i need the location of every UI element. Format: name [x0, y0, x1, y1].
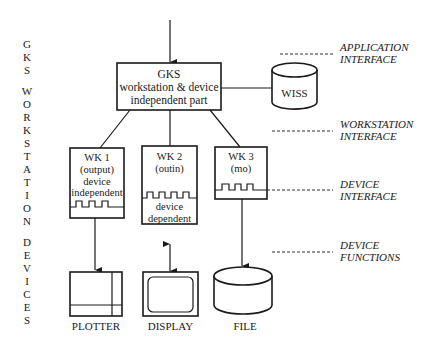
workstation-wk3: WK 3 (mo) [215, 147, 267, 199]
side-letter: E [24, 249, 31, 261]
side-letter: S [24, 137, 30, 149]
diagram-text: WK 3 [228, 151, 253, 162]
diagram-text: device [83, 176, 111, 187]
gks-wk1-link [100, 110, 130, 148]
side-letter: O [23, 98, 31, 110]
side-letter: A [23, 163, 31, 175]
application-interface-label: APPLICATION [339, 41, 409, 53]
side-letter: V [23, 262, 31, 274]
diagram-text: FUNCTIONS [339, 251, 400, 263]
wiss-storage: WISS [272, 63, 317, 109]
diagram-text: device [156, 201, 184, 212]
side-letter: E [24, 301, 31, 313]
workstation-interface-label: WORKSTATION [340, 118, 414, 130]
side-letter: N [23, 215, 31, 227]
gks-title: GKS [157, 68, 180, 80]
plotter-label: PLOTTER [72, 320, 121, 332]
diagram-text: independent [71, 187, 122, 198]
side-letter: O [23, 202, 31, 214]
workstation-wk2: WK 2 (outin) device dependent [142, 146, 197, 224]
diagram-text: dependent [148, 213, 191, 224]
side-letter: S [24, 314, 30, 326]
device-interface-label: DEVICE [339, 178, 379, 190]
gks-architecture-diagram: G K S W O R K S T A T I O N D E V I C E … [0, 0, 440, 345]
device-functions-label: DEVICE [339, 239, 379, 251]
side-letter: C [23, 288, 30, 300]
side-letter: K [23, 51, 31, 63]
diagram-text: (output) [80, 164, 114, 176]
gks-line3: independent part [131, 94, 209, 107]
diagram-text: INTERFACE [339, 130, 397, 142]
wiss-label: WISS [281, 87, 307, 99]
diagram-text: INTERFACE [339, 53, 397, 65]
side-letter: I [25, 275, 29, 287]
side-letter: T [24, 150, 31, 162]
side-letter: T [24, 176, 31, 188]
display-device: DISPLAY [143, 272, 198, 332]
plotter-device: PLOTTER [70, 272, 122, 332]
file-label: FILE [233, 320, 257, 332]
side-letter: D [23, 236, 31, 248]
side-letter: W [22, 85, 33, 97]
diagram-text: WK 1 [84, 152, 109, 163]
side-letter: I [25, 189, 29, 201]
side-label: G K S W O R K S T A T I O N D E V I C E … [22, 38, 33, 326]
diagram-text: WK 2 [157, 151, 182, 162]
side-letter: S [24, 64, 30, 76]
workstation-wk1: WK 1 (output) device independent [70, 148, 124, 218]
diagram-text: INTERFACE [339, 190, 397, 202]
gks-wk3-link [210, 110, 240, 147]
display-label: DISPLAY [148, 320, 193, 332]
side-letter: R [23, 111, 31, 123]
gks-box: GKS workstation & device independent par… [117, 63, 221, 110]
side-letter: K [23, 124, 31, 136]
diagram-text: (mo) [231, 163, 252, 175]
gks-line2: workstation & device [119, 81, 218, 93]
file-device: FILE [214, 267, 272, 332]
side-letter: G [23, 38, 31, 50]
diagram-text: (outin) [155, 163, 184, 175]
